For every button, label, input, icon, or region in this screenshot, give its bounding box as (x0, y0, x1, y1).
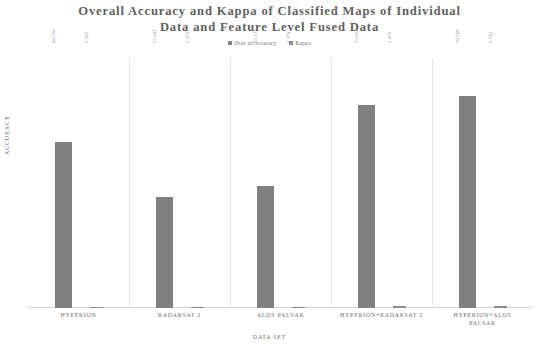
bar-wrap-kappa-1: 0.279 (191, 58, 204, 308)
bar-kappa-2 (292, 307, 305, 308)
bar-chart: Overall Accuracy and Kappa of Classified… (0, 0, 539, 357)
bar-value-label-kappa-1: 0.279 (192, 45, 197, 56)
category-label-hyperion-alos-palsar-line-1: HYPERION+ALOS (432, 312, 533, 320)
bar-value-label-kappa-2: 0.376 (293, 45, 298, 56)
bar-accuracy-3 (358, 105, 375, 308)
bar-wrap-kappa-4: 0.711 (494, 58, 507, 308)
bar-wrap-kappa-3: 0.679 (393, 58, 406, 308)
category-label-radarsat2-line-1: RADARSAT 2 (129, 312, 230, 320)
category-label-alos-palsar: ALOS PALSAR (230, 312, 331, 320)
category-label-hyperion-line-1: HYPERION (28, 312, 129, 320)
bar-wrap-kappa-0: 0.565 (90, 58, 103, 308)
bar-value-label-kappa-4: 0.711 (495, 45, 500, 56)
chart-title-line-1: Overall Accuracy and Kappa of Classified… (0, 4, 539, 20)
bar-value-label-accuracy-2: 63.333 (260, 42, 265, 56)
bar-wrap-accuracy-2: 63.333 (257, 58, 274, 308)
bar-accuracy-2 (257, 186, 274, 308)
bar-accuracy-0 (55, 142, 72, 308)
legend-swatch-accuracy (228, 41, 232, 45)
bar-kappa-1 (191, 307, 204, 308)
bar-wrap-accuracy-4: 76.968 (459, 58, 476, 308)
bar-wrap-accuracy-1: 59.641 (156, 58, 173, 308)
bar-value-label-accuracy-0: 66.596 (58, 42, 63, 56)
bar-kappa-4 (494, 306, 507, 308)
bar-value-label-kappa-0: 0.565 (91, 45, 96, 56)
bar-wrap-kappa-2: 0.376 (292, 58, 305, 308)
bar-group-radarsat2: 59.641 0.279 (129, 58, 230, 308)
category-label-hyperion-radarsat2-line-1: HYPERION+RADARSAT 2 (329, 312, 434, 320)
bar-value-label-accuracy-4: 76.968 (462, 42, 467, 56)
x-axis-title: DATA SET (0, 334, 539, 340)
category-label-alos-palsar-line-1: ALOS PALSAR (230, 312, 331, 320)
bar-wrap-accuracy-0: 66.596 (55, 58, 72, 308)
bar-value-label-accuracy-3: 73.604 (361, 42, 366, 56)
plot-area: 66.596 0.565 59.641 0.279 (28, 58, 533, 308)
category-label-hyperion-alos-palsar: HYPERION+ALOS PALSAR (432, 312, 533, 327)
bar-kappa-0 (90, 307, 103, 308)
category-label-radarsat2: RADARSAT 2 (129, 312, 230, 320)
bar-group-hyperion-radarsat2: 73.604 0.679 (331, 58, 432, 308)
bar-value-label-accuracy-1: 59.641 (159, 42, 164, 56)
bar-group-alos-palsar: 63.333 0.376 (230, 58, 331, 308)
bar-accuracy-1 (156, 197, 173, 308)
category-label-hyperion-radarsat2: HYPERION+RADARSAT 2 (329, 312, 434, 320)
bar-group-hyperion-alos-palsar: 76.968 0.711 (432, 58, 533, 308)
bar-value-label-kappa-3: 0.679 (394, 45, 399, 56)
category-label-hyperion: HYPERION (28, 312, 129, 320)
category-label-hyperion-alos-palsar-line-2: PALSAR (432, 320, 533, 328)
y-axis-title: ACCURACY (4, 115, 10, 155)
bar-kappa-3 (393, 306, 406, 308)
bar-group-hyperion: 66.596 0.565 (28, 58, 129, 308)
bar-wrap-accuracy-3: 73.604 (358, 58, 375, 308)
bar-accuracy-4 (459, 96, 476, 308)
